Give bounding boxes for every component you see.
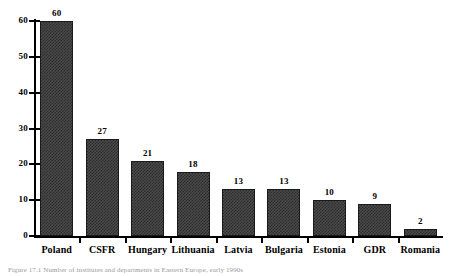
bar-value-label: 13 <box>264 177 304 186</box>
y-axis-tick-label: 50 <box>2 52 28 61</box>
bar <box>131 161 164 236</box>
bar <box>267 189 300 236</box>
bar <box>86 139 119 236</box>
bar <box>404 229 437 236</box>
y-axis-tick-label: 60 <box>2 16 28 25</box>
x-axis-tick <box>170 238 172 243</box>
bar-value-label: 9 <box>355 192 395 201</box>
x-axis-tick <box>79 238 81 243</box>
x-axis-tick <box>307 238 309 243</box>
y-axis-tick-label: 20 <box>2 159 28 168</box>
bar <box>40 21 73 236</box>
x-axis-tick <box>216 238 218 243</box>
bar <box>177 172 210 237</box>
x-axis-tick <box>352 238 354 243</box>
bar-chart: 0102030405060 PolandCSFRHungaryLithuania… <box>0 0 449 276</box>
figure-caption: Figure 17.1 Number of institutes and dep… <box>8 266 442 276</box>
y-axis-tick-label: 40 <box>2 88 28 97</box>
x-axis-tick <box>125 238 127 243</box>
bar-value-label: 10 <box>309 188 349 197</box>
y-axis-tick-label: 0 <box>2 231 28 240</box>
x-axis-tick <box>261 238 263 243</box>
bar-value-label: 18 <box>173 160 213 169</box>
bar-value-label: 13 <box>219 177 259 186</box>
bar <box>313 200 346 236</box>
x-axis-line <box>34 236 443 238</box>
bar-value-label: 2 <box>400 217 440 226</box>
x-axis-tick <box>398 238 400 243</box>
bar-value-label: 27 <box>82 127 122 136</box>
y-axis-tick-label: 10 <box>2 195 28 204</box>
bar-value-label: 60 <box>37 9 77 18</box>
bar <box>358 204 391 236</box>
x-axis-category-label: Romania <box>380 244 449 256</box>
y-axis-tick-label: 30 <box>2 124 28 133</box>
bar <box>222 189 255 236</box>
bar-value-label: 21 <box>128 149 168 158</box>
